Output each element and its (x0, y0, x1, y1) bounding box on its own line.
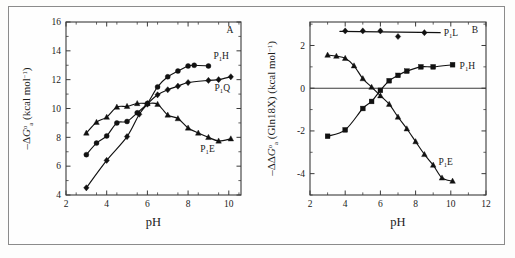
panel-b-point-P1H (418, 64, 423, 69)
panel-a-point-P1Q (216, 77, 221, 83)
panel-a-series-label-P1E: P1E (200, 144, 215, 155)
panel-b-point-P1H (387, 78, 392, 83)
panel-b-point-P1H (369, 99, 374, 104)
panel-a-letter: A (227, 25, 234, 35)
panel-a-point-P1H (175, 69, 180, 74)
panel-a-ytick-label: 14 (52, 46, 62, 56)
panel-b-point-P1H (396, 73, 401, 78)
svg-text:–ΔGoa (kcal mol−1): –ΔGoa (kcal mol−1) (20, 67, 34, 150)
panel-a-ytick-label: 6 (56, 161, 61, 171)
panel-a-point-P1H (125, 119, 130, 124)
panel-a-xtick-label: 6 (145, 199, 150, 209)
panel-a-point-P1Q (165, 87, 170, 93)
panel-a-point-P1H (114, 120, 119, 125)
panel-b-ytick-label: -2 (297, 126, 305, 136)
panel-a-point-P1H (84, 152, 89, 157)
panel-b-series-P1H (325, 62, 455, 138)
panel-a-yaxis-title: –ΔGoa (kcal mol−1) (20, 67, 34, 150)
panel-a-point-P1H (104, 133, 109, 138)
panel-b-point-P1E (325, 52, 331, 57)
panel-b-xtick-label: 4 (343, 199, 348, 209)
panel-a-xtick-label: 8 (186, 199, 191, 209)
panel-b-xtick-label: 6 (378, 199, 383, 209)
panel-a-axes-frame (66, 22, 241, 195)
panel-a-ytick-label: 4 (56, 190, 61, 200)
panel-a-ticks: 24681046810121416 (52, 17, 242, 208)
panel-b-point-P1H (431, 64, 436, 69)
panel-a-point-P1H (186, 63, 191, 68)
panel-a-series-label-P1Q: P1Q (215, 83, 231, 94)
panel-b-ytick-label: 0 (300, 84, 305, 94)
panel-b-point-P1L (360, 28, 365, 34)
panel-a-ytick-label: 16 (52, 17, 62, 27)
panel-a-ytick-label: 8 (56, 133, 61, 143)
panel-a-point-P1Q (185, 79, 190, 85)
panel-a-point-P1Q (175, 83, 180, 89)
panel-a-point-P1Q (206, 77, 211, 83)
panel-a-xtick-label: 2 (64, 199, 69, 209)
panel-b-series-label-P1E: P1E (438, 157, 453, 168)
panel-a-point-P1H (94, 141, 99, 146)
panel-a-series-P1H (84, 63, 211, 157)
panel-a-plot: 24681046810121416P1HP1QP1EApH–ΔGoa (kcal… (8, 0, 258, 258)
panel-a-point-P1H (206, 63, 211, 68)
panel-b-ytick-label: -4 (297, 169, 305, 179)
panel-b-letter: B (472, 25, 478, 35)
figure-container: 24681046810121416P1HP1QP1EApH–ΔGoa (kcal… (0, 0, 515, 258)
panel-b-series-P1E (325, 52, 456, 183)
panel-b-xaxis-title: pH (390, 215, 405, 229)
panel-b: 2468101220-2-4P1LP1HP1EBpH–ΔΔGoa (Gln18X… (258, 0, 508, 258)
panel-a-xtick-label: 10 (224, 199, 234, 209)
panel-a-series-P1Q (84, 74, 234, 191)
panel-b-plot: 2468101220-2-4P1LP1HP1EBpH–ΔΔGoa (Gln18X… (258, 0, 508, 258)
panel-b-xtick-label: 2 (308, 199, 313, 209)
panel-b-point-P1H (360, 106, 365, 111)
panel-b-point-P1H (450, 62, 455, 67)
panel-b-ticks: 2468101220-2-4 (297, 22, 491, 209)
panel-b-ytick-label: 2 (300, 41, 305, 51)
panel-a-ytick-label: 12 (52, 75, 62, 85)
panel-a: 24681046810121416P1HP1QP1EApH–ΔGoa (kcal… (8, 0, 258, 258)
panel-a-ytick-label: 10 (52, 104, 62, 114)
panel-a-point-P1E (94, 119, 100, 124)
panel-b-xtick-label: 8 (413, 199, 418, 209)
svg-text:–ΔΔGoa (Gln18X) (kcal mol−1): –ΔΔGoa (Gln18X) (kcal mol−1) (265, 41, 279, 177)
panel-b-xtick-label: 12 (481, 199, 491, 209)
panel-b-point-P1L (422, 30, 427, 36)
panel-a-point-P1H (165, 74, 170, 79)
panel-b-point-P1L (395, 33, 400, 39)
panel-b-point-P1H (325, 134, 330, 139)
panel-a-point-P1E (228, 136, 234, 141)
panel-a-xtick-label: 4 (104, 199, 109, 209)
panel-b-point-P1L (343, 28, 348, 34)
panel-b-curve-P1H (328, 65, 453, 137)
panel-a-series-label-P1H: P1H (214, 51, 230, 62)
panel-b-point-P1H (343, 127, 348, 132)
panel-b-xtick-label: 10 (446, 199, 456, 209)
panel-b-series-P1L (340, 28, 440, 40)
panel-a-xaxis-title: pH (146, 215, 161, 229)
panel-a-point-P1H (155, 84, 160, 89)
panel-b-point-P1H (404, 69, 409, 74)
panel-b-series-label-P1H: P1H (460, 61, 476, 72)
panel-b-point-P1H (378, 88, 383, 93)
panel-b-curve-P1E (328, 55, 453, 181)
panel-a-point-P1H (192, 63, 197, 68)
panel-b-point-P1L (378, 28, 383, 34)
panel-b-axes-frame (310, 22, 486, 195)
panel-a-curve-P1H (86, 65, 208, 154)
panel-b-yaxis-title: –ΔΔGoa (Gln18X) (kcal mol−1) (265, 41, 279, 177)
panel-a-point-P1Q (228, 74, 233, 80)
panel-b-series-label-P1L: P1L (444, 28, 459, 39)
